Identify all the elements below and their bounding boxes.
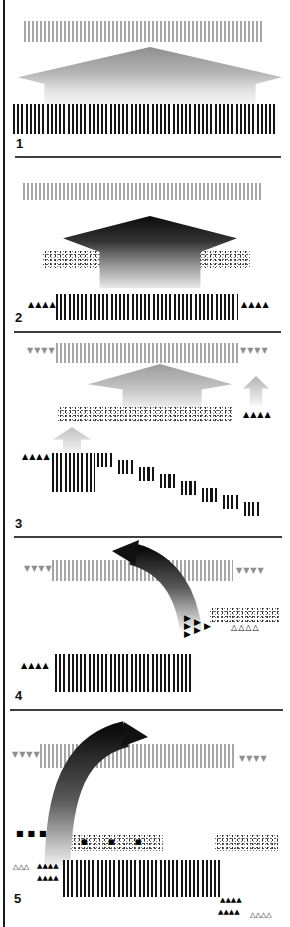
- panel5-band-square: ■: [81, 839, 88, 846]
- panel5-open-right-markers: △△△△: [250, 912, 272, 919]
- panel2-right-triangle-markers: ▲▲▲▲: [241, 301, 270, 309]
- panel5-band-square: ■: [108, 839, 115, 846]
- cluster-col: ▶▶: [194, 618, 203, 634]
- panel4-left-triangle-markers: ▲▲▲▲: [21, 662, 50, 670]
- panel-3-label: 3: [15, 517, 22, 531]
- panel2-upper-striped-bar: [23, 183, 263, 200]
- stair-block: [118, 460, 134, 474]
- panel5-black-right-row1: ▲▲▲▲: [220, 897, 242, 904]
- panel1-lower-striped-bar: [13, 104, 278, 134]
- panel5-square-markers: ■■■: [16, 830, 51, 838]
- stair-block: [223, 495, 239, 509]
- panel5-black-right-row2: ▲▲▲▲: [218, 909, 240, 916]
- panel1-up-arrow-icon: [18, 47, 282, 105]
- panel5-black-left-row1: ▲▲▲▲: [37, 863, 59, 870]
- panel-2-label: 2: [15, 311, 22, 325]
- panel3-upper-striped-bar: [56, 343, 238, 363]
- panel3-small-right-up-arrow-icon: [243, 376, 269, 406]
- panel2-lower-striped-bar: [56, 294, 238, 320]
- panel1-upper-striped-bar: [24, 21, 264, 42]
- panel-2-divider: [14, 331, 281, 333]
- stair-block: [181, 481, 197, 495]
- panel3-left-triangle-markers: ▲▲▲▲: [22, 453, 51, 461]
- panel4-lower-striped-bar: [55, 654, 193, 692]
- cluster-col: ▶▶▶: [184, 614, 193, 638]
- panel-1-label: 1: [16, 137, 23, 151]
- panel3-up-arrow-icon: [88, 364, 232, 408]
- panel2-left-triangle-markers: ▲▲▲▲: [28, 301, 57, 309]
- panel4-open-triangle-markers: △△△△: [231, 624, 260, 632]
- panel-4-label: 4: [15, 689, 22, 703]
- panel4-right-arrow-cluster-icon: ▶▶▶ ▶▶ ▶: [184, 611, 214, 641]
- stair-block: [160, 474, 176, 488]
- stair-block: [139, 467, 155, 481]
- stair-block: [244, 502, 260, 516]
- panel-5-label: 5: [14, 892, 21, 906]
- panel3-stipple-band: [58, 406, 232, 422]
- stair-block: [97, 453, 113, 467]
- panel5-lower-striped-bar: [63, 860, 222, 897]
- stair-block: [52, 453, 95, 492]
- panel5-band-square: ■: [135, 839, 142, 846]
- panel3-top-right-down-markers: ▼▼▼▼: [240, 347, 269, 355]
- panel3-mid-right-triangle-markers: ▲▲▲▲: [243, 411, 272, 419]
- panel3-top-left-down-markers: ▼▼▼▼: [27, 347, 56, 355]
- panel-1-divider: [15, 156, 281, 158]
- cluster-col: ▶: [204, 622, 213, 630]
- panel5-black-left-row2: ▲▲▲▲: [37, 875, 59, 882]
- panel5-open-left-markers: △△△: [13, 864, 29, 871]
- figure-canvas: 1 ▲▲▲▲ ▲▲▲▲ 2 ▼▼▼▼ ▼▼▼▼ ▲▲▲▲ ▲▲▲▲ 3 ▼▼▼▼…: [0, 0, 290, 927]
- stair-block: [202, 488, 218, 502]
